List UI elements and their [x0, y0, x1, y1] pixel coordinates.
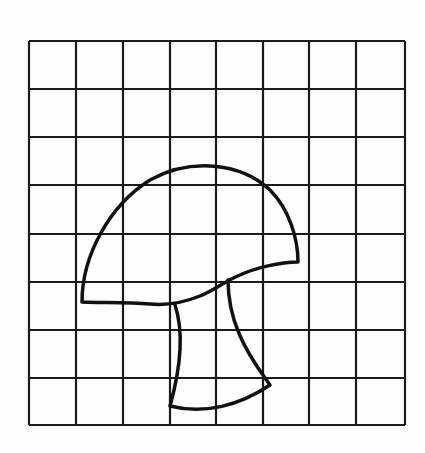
grid-lines: [29, 41, 405, 425]
mushroom-cap: [82, 166, 298, 305]
mushroom-drawing: [82, 166, 298, 409]
grid-diagram: [0, 0, 425, 453]
